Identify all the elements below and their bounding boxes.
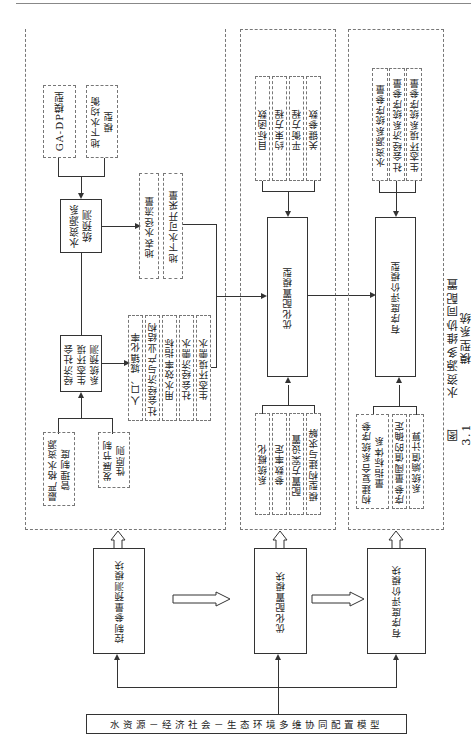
figure-caption: 图 3.1 水资源多维协同配置模型系统 (450, 270, 470, 450)
water-order-parameter-box: 水资源系统序参量 (372, 68, 388, 181)
parameter-calibration-box: 参数率定 (272, 413, 287, 515)
hollow-arrow-right-icon (172, 591, 232, 607)
optimization-module[interactable]: 优化配置模块 (254, 548, 307, 654)
groundwater-exploitable-box: 地下水可开采量 (163, 173, 183, 279)
key-parameters-box: 关键参数 (306, 76, 321, 181)
entropy-calculation-box: 系统熵值计算 (409, 414, 424, 509)
order-evaluation-module[interactable]: 有序度评价模块 (367, 548, 426, 654)
arrow-up-icon (396, 377, 402, 383)
objective-function-box: 目标函数 (255, 76, 270, 181)
connector (396, 181, 397, 213)
socio-water-demand-box: 社会经济需水 (179, 315, 194, 421)
constraint-equation-box: 约束方程 (272, 76, 287, 181)
connector (379, 192, 416, 193)
strict-water-management-box: 最严格水资源 管理制度 (43, 432, 75, 506)
connector (262, 181, 263, 191)
caption-title: 水资源多维协同配置模型系统 (447, 270, 473, 404)
socio-order-parameter-box: 社会经济系统序参量 (389, 68, 405, 181)
arrow-up-icon (114, 654, 120, 660)
socio-eco-forecast-box: 经济社会 生态环境 系统预测 (60, 335, 102, 392)
connector (415, 181, 416, 192)
order-evaluation-model-box[interactable]: 有序度评价模型 (375, 217, 416, 377)
connector (81, 253, 82, 342)
balance-equation-box: 平衡方程 (289, 76, 304, 181)
development-restraint-box: 发展节制 性原则 (98, 432, 130, 488)
connector (117, 660, 118, 688)
connector (102, 226, 137, 227)
connector (314, 181, 315, 191)
connector (102, 363, 126, 364)
surface-runoff-box: 地表水径流量 (139, 173, 159, 279)
page-top-rule (16, 3, 471, 4)
hollow-arrow-right-icon (311, 591, 366, 607)
connector (288, 191, 289, 213)
arrow-up-icon (78, 392, 84, 398)
control-parameter-forecast-module[interactable]: 控制参量预测模块 (93, 548, 145, 654)
water-resources-forecast-box: 水资源系 统预测 (60, 199, 102, 253)
ga-dp-model-box: GA-DP模型 (43, 85, 76, 158)
threshold-determination-box: 序参量阈值的确定 (392, 414, 407, 509)
connector (373, 406, 417, 407)
socio-economy-structure-box: 社会经济与产业结构 (145, 315, 160, 421)
connector (104, 158, 105, 176)
model-build-solve-box: 模型构建与求解 (306, 413, 321, 515)
water-efficiency-box: 用水效率指标 (162, 315, 177, 421)
arrow-up-icon (285, 377, 291, 383)
scheme-setting-box: 配置方案设置 (289, 413, 304, 515)
root-model-box[interactable]: 水资源－经济社会－生态环境多维协同配置模型 (86, 714, 407, 734)
connector (58, 158, 59, 176)
connector (288, 385, 289, 405)
arrow-up-icon (393, 654, 399, 660)
groundwater-balance-model-box: 地下水均衡 模型 (86, 85, 118, 158)
connector (81, 398, 82, 418)
build-indicator-system-box: 构建复合系统序参 量指标体系 (356, 414, 389, 509)
eco-order-parameter-box: 生态环境系统序参量 (406, 68, 422, 181)
eco-water-demand-box: 生态环境需水 (196, 315, 211, 421)
connector (262, 405, 315, 406)
optimization-model-box[interactable]: 优化配置模型 (267, 217, 308, 377)
connector (58, 418, 113, 419)
connector (117, 687, 397, 688)
caption-number: 图 3.1 (447, 418, 473, 450)
arrow-up-icon (275, 654, 281, 660)
connector (396, 660, 397, 688)
system-generalization-box: 系统概化 (255, 413, 270, 515)
connector (278, 660, 279, 716)
connector (379, 181, 380, 192)
connector (183, 224, 217, 225)
connector (211, 367, 217, 368)
connector (399, 385, 400, 407)
population-urbanization-box: 人口、城镇化率 (128, 315, 143, 421)
